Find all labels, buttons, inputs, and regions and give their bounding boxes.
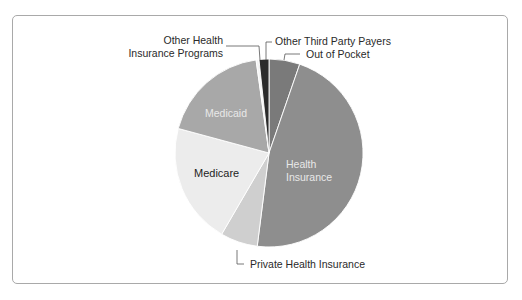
label-health-insurance-2: Insurance — [286, 171, 332, 183]
label-medicaid: Medicaid — [205, 107, 247, 119]
label-other-health-programs-1: Other Health — [163, 34, 223, 46]
label-other-third-party: Other Third Party Payers — [275, 35, 391, 47]
label-out-of-pocket: Out of Pocket — [306, 48, 370, 60]
leader-out-of-pocket — [284, 54, 300, 60]
leader-private-health-insurance — [237, 250, 244, 264]
label-health-insurance-1: Health — [286, 158, 317, 170]
label-medicare: Medicare — [194, 167, 239, 179]
leader-other-third-party — [266, 42, 272, 60]
leader-other-health-programs — [226, 46, 260, 60]
pie-slices — [175, 59, 363, 247]
label-other-health-programs-2: Insurance Programs — [128, 47, 223, 59]
pie-chart: Other Health Insurance Programs Other Th… — [0, 0, 522, 300]
label-private-health-insurance: Private Health Insurance — [250, 258, 365, 270]
